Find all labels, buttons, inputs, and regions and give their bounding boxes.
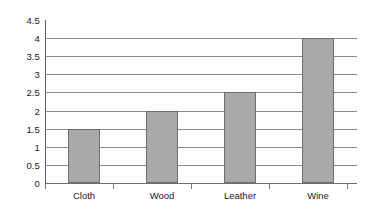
y-axis-tick-label: 4.5 xyxy=(0,15,40,26)
x-axis-label-cloth: Cloth xyxy=(39,190,129,201)
x-axis-tick xyxy=(347,184,348,189)
bar-chart: 4.5 4 3.5 3 2.5 2 1.5 1 0.5 0 Cloth W xyxy=(0,0,367,218)
y-axis-tick-label: 2 xyxy=(0,106,40,117)
bar-wood xyxy=(146,111,178,183)
y-axis-tick-label: 1 xyxy=(0,142,40,153)
x-axis-label-wood: Wood xyxy=(117,190,207,201)
x-axis-tick xyxy=(191,184,192,189)
bar-cloth xyxy=(68,129,100,183)
y-axis-tick-label: 2.5 xyxy=(0,87,40,98)
y-axis-tick-label: 3.5 xyxy=(0,51,40,62)
y-axis-tick-label: 0.5 xyxy=(0,160,40,171)
y-axis-tick-label: 4 xyxy=(0,33,40,44)
bar-wine xyxy=(302,38,334,183)
x-axis-tick xyxy=(45,184,46,189)
x-axis-tick xyxy=(113,184,114,189)
plot-area xyxy=(45,20,357,183)
x-axis-label-wine: Wine xyxy=(273,190,363,201)
y-axis-tick-label: 3 xyxy=(0,69,40,80)
x-axis-tick xyxy=(269,184,270,189)
y-axis-tick-label: 1.5 xyxy=(0,124,40,135)
bar-leather xyxy=(224,92,256,183)
y-axis-tick-label: 0 xyxy=(0,178,40,189)
bars-layer xyxy=(45,20,357,183)
x-axis-label-leather: Leather xyxy=(195,190,285,201)
x-axis-baseline xyxy=(45,183,357,184)
